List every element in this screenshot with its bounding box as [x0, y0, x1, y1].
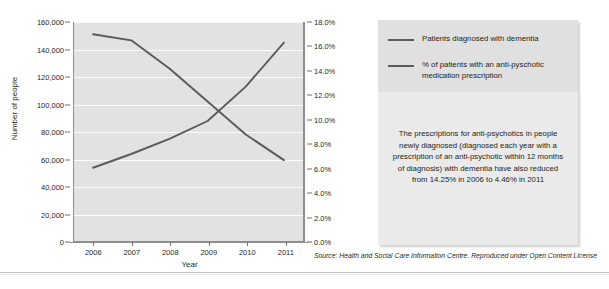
right-axis-tick-label: 2.0% [314, 213, 331, 222]
legend-item-label: Patients diagnosed with dementia [422, 34, 539, 45]
right-axis-tick-mark [307, 193, 312, 194]
left-axis-tick-label: 100,000 [37, 100, 64, 109]
legend-line-swatch-icon [388, 65, 414, 67]
chart-legend: Patients diagnosed with dementia % of pa… [378, 20, 578, 92]
left-axis-tick-label: 120,000 [37, 73, 64, 82]
right-axis-tick-label: 0.0% [314, 238, 331, 247]
left-axis-tick-label: 80,000 [41, 128, 64, 137]
left-axis-tick-label: 20,000 [41, 210, 64, 219]
left-axis-tick-label: 60,000 [41, 155, 64, 164]
footer-divider [0, 272, 609, 273]
right-axis-tick-mark [307, 119, 312, 120]
note-text: The prescriptions for anti-psychotics in… [391, 128, 565, 186]
left-axis-tick-mark [65, 214, 70, 215]
series-line-antipsychotic [93, 34, 284, 160]
left-axis-tick-label: 160,000 [37, 18, 64, 27]
chart-figure: 020,00040,00060,00080,000100,000120,0001… [0, 0, 609, 289]
left-axis-tick-mark [65, 104, 70, 105]
right-axis-tick-label: 4.0% [314, 189, 331, 198]
x-axis-tick-mark [132, 242, 133, 246]
plot-area [74, 22, 305, 242]
right-axis-tick-label: 6.0% [314, 164, 331, 173]
right-axis-tick-mark [307, 144, 312, 145]
right-axis-tick-mark [307, 217, 312, 218]
right-axis-tick-label: 16.0% [314, 42, 335, 51]
left-axis-tick-mark [65, 159, 70, 160]
right-axis-tick-mark [307, 46, 312, 47]
right-axis-tick-label: 8.0% [314, 140, 331, 149]
right-axis-tick-mark [307, 22, 312, 23]
x-axis-tick-mark [93, 242, 94, 246]
x-axis-title: Year [74, 260, 305, 269]
right-axis-tick-label: 18.0% [314, 18, 335, 27]
side-panel: Patients diagnosed with dementia % of pa… [378, 20, 578, 245]
footer-divider-shadow [0, 274, 609, 275]
source-attribution: Source: Health and Social Care Informati… [0, 252, 597, 259]
left-axis-tick-mark [65, 187, 70, 188]
legend-item-antipsychotic: % of patients with an anti-pyschotic med… [388, 60, 576, 81]
series-line-dementia [93, 43, 284, 168]
left-axis-tick-mark [65, 22, 70, 23]
left-axis-tick-label: 40,000 [41, 183, 64, 192]
left-axis-tick-mark [65, 49, 70, 50]
right-y-axis: 0.0%2.0%4.0%6.0%8.0%10.0%12.0%14.0%16.0%… [305, 16, 371, 248]
right-axis-tick-label: 12.0% [314, 91, 335, 100]
right-axis-tick-mark [307, 70, 312, 71]
left-axis-tick-mark [65, 77, 70, 78]
x-axis-tick-mark [209, 242, 210, 246]
x-axis-tick-mark [247, 242, 248, 246]
right-axis-tick-label: 14.0% [314, 66, 335, 75]
legend-line-swatch-icon [388, 39, 414, 41]
left-axis-tick-label: 0 [60, 238, 64, 247]
legend-item-dementia: Patients diagnosed with dementia [388, 34, 576, 45]
left-axis-title: Number of people [10, 49, 19, 169]
note-panel: The prescriptions for anti-psychotics in… [378, 92, 578, 245]
right-axis-tick-label: 10.0% [314, 115, 335, 124]
line-chart: 020,00040,00060,00080,000100,000120,0001… [0, 0, 372, 275]
series-lines [74, 22, 303, 242]
x-axis-tick-mark [286, 242, 287, 246]
legend-item-label: % of patients with an anti-pyschotic med… [422, 60, 576, 81]
right-axis-tick-mark [307, 168, 312, 169]
x-axis-tick-mark [170, 242, 171, 246]
left-axis-tick-mark [65, 132, 70, 133]
left-axis-tick-label: 140,000 [37, 45, 64, 54]
right-axis-tick-mark [307, 95, 312, 96]
